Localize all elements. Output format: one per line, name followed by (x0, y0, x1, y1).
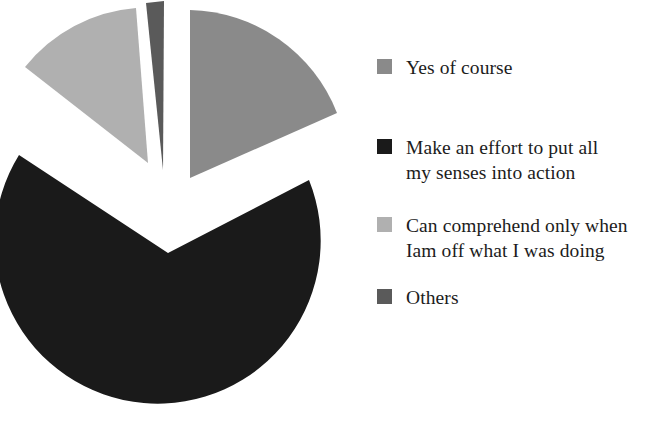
pie-chart-svg (0, 0, 360, 421)
legend-item-make-an-effort[interactable]: Make an effort to put all my senses into… (377, 135, 671, 185)
legend-item-can-comprehend[interactable]: Can comprehend only when Iam off what I … (377, 213, 671, 263)
legend-label-yes-of-course: Yes of course (406, 55, 671, 80)
legend-label-others: Others (406, 285, 671, 310)
pie-slice-others[interactable] (146, 1, 164, 170)
legend-item-yes-of-course[interactable]: Yes of course (377, 55, 671, 80)
legend-swatch-can-comprehend (377, 217, 392, 232)
legend-swatch-yes-of-course (377, 59, 392, 74)
legend-swatch-others (377, 289, 392, 304)
pie-slice-make-an-effort[interactable] (0, 155, 321, 404)
pie-chart-figure: Yes of course Make an effort to put all … (0, 0, 671, 421)
legend-label-can-comprehend: Can comprehend only when Iam off what I … (406, 213, 671, 263)
legend-item-others[interactable]: Others (377, 285, 671, 310)
legend-swatch-make-an-effort (377, 139, 392, 154)
pie-slice-can-comprehend[interactable] (25, 8, 148, 163)
chart-legend: Yes of course Make an effort to put all … (377, 55, 671, 312)
legend-label-make-an-effort: Make an effort to put all my senses into… (406, 135, 671, 185)
pie-chart-plot-area (0, 0, 360, 421)
pie-slice-yes-of-course[interactable] (190, 10, 337, 178)
